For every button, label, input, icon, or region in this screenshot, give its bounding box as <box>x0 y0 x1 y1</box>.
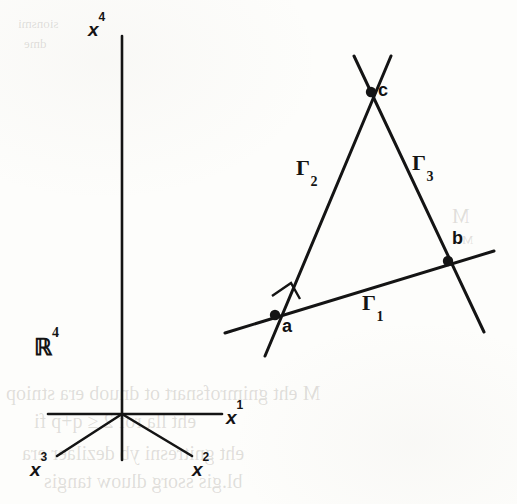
axis-label-text: x <box>226 407 237 428</box>
axis-label-x3: x3 <box>30 458 47 481</box>
ambient-space-exponent: 4 <box>52 325 59 340</box>
curve-label-Gamma1: Γ1 <box>362 290 383 319</box>
figure-canvas <box>0 0 517 504</box>
axis-label-x1: x1 <box>226 406 243 429</box>
intersection-points <box>270 87 453 320</box>
axis-line-x3 <box>57 414 122 456</box>
axis-label-text: x <box>88 19 99 40</box>
curve-line-Gamma1 <box>225 251 494 333</box>
ambient-space-label: ℝ4 <box>34 334 59 361</box>
axis-label-text: x <box>192 459 203 480</box>
curve-label-Gamma3: Γ3 <box>412 150 433 179</box>
axis-line-x2 <box>122 414 192 456</box>
vertex-label-b: b <box>452 228 463 249</box>
vertex-dot-b <box>443 256 453 266</box>
curve-label-subscript: 1 <box>377 309 384 324</box>
axis-label-exponent: 1 <box>237 398 244 412</box>
coordinate-axes <box>48 36 222 460</box>
vertex-dot-c <box>366 87 376 97</box>
axis-label-x4: x4 <box>88 18 105 41</box>
axis-label-exponent: 4 <box>99 10 106 24</box>
curve-label-Gamma2: Γ2 <box>296 155 317 184</box>
gamma-curves <box>225 56 494 356</box>
vertex-dot-a <box>270 310 280 320</box>
axis-label-text: x <box>30 459 41 480</box>
vertex-label-c: c <box>378 80 388 101</box>
curve-label-subscript: 2 <box>311 174 318 189</box>
curve-label-subscript: 3 <box>427 169 434 184</box>
axis-label-x2: x2 <box>192 458 209 481</box>
vertex-label-a: a <box>282 316 292 337</box>
axis-label-exponent: 3 <box>41 450 48 464</box>
ambient-space-symbol: ℝ <box>34 335 52 360</box>
axis-label-exponent: 2 <box>203 450 210 464</box>
curve-label-text: Γ <box>412 150 426 175</box>
curve-label-text: Γ <box>362 290 376 315</box>
curve-label-text: Γ <box>296 155 310 180</box>
